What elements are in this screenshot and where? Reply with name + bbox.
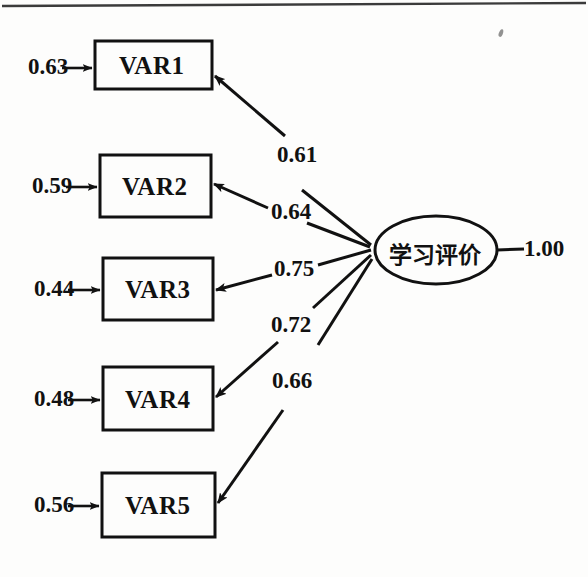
error-label-var3: 0.44	[34, 276, 74, 302]
loading-path-var3-head	[216, 275, 272, 290]
loading-label-var3: 0.75	[274, 256, 314, 282]
loading-path-var5-tail	[318, 259, 372, 345]
loading-path-var4-head	[216, 342, 278, 397]
error-label-var5: 0.56	[34, 492, 74, 518]
loading-label-var4: 0.72	[271, 312, 311, 338]
indicator-label-var4: VAR4	[125, 386, 190, 414]
loading-label-var5: 0.66	[272, 368, 312, 394]
latent-variable-label: 学习评价	[389, 236, 481, 270]
loading-path-var2-head	[214, 184, 268, 208]
latent-variance-label: 1.00	[524, 236, 564, 262]
indicator-label-var2: VAR2	[122, 173, 187, 201]
loading-label-var1: 0.61	[277, 142, 317, 168]
loading-path-var1-tail	[302, 190, 371, 245]
loading-path-var1-head	[215, 76, 285, 136]
error-label-var2: 0.59	[32, 173, 72, 199]
top-rule	[2, 3, 586, 6]
indicator-label-var3: VAR3	[125, 276, 190, 304]
error-label-var1: 0.63	[28, 54, 68, 80]
indicator-label-var1: VAR1	[119, 52, 184, 80]
variance-connector	[497, 249, 524, 250]
path-diagram-figure: 0.63 0.59 0.44 0.48 0.56 VAR1 VAR2 VAR3 …	[0, 0, 588, 577]
diagram-canvas	[0, 0, 588, 577]
loading-path-var5-head	[218, 410, 283, 503]
error-label-var4: 0.48	[34, 386, 74, 412]
indicator-label-var5: VAR5	[125, 492, 190, 520]
loading-label-var2: 0.64	[271, 199, 311, 225]
